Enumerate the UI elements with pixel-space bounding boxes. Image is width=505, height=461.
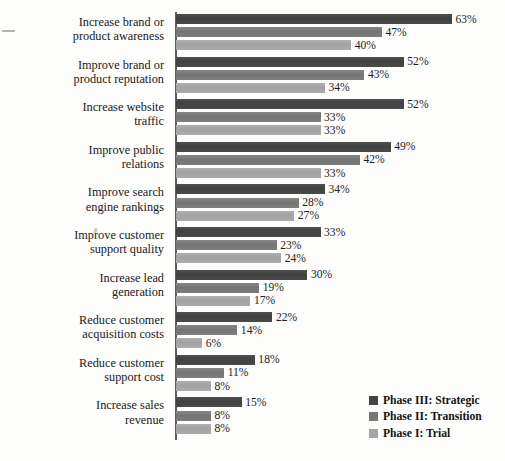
category-label: Improve searchengine rankings [6, 185, 164, 213]
bar-value-label: 18% [258, 354, 279, 364]
bar-value-label: 17% [254, 295, 275, 305]
bar-value-label: 24% [285, 253, 306, 263]
bar-value-label: 8% [215, 410, 230, 420]
bar [176, 198, 299, 208]
bar-value-label: 47% [385, 27, 406, 37]
bar-value-label: 15% [245, 397, 266, 407]
legend-item[interactable]: Phase II: Transition [369, 409, 482, 426]
bar [176, 83, 325, 93]
bar-value-label: 6% [206, 338, 221, 348]
bar-value-label: 27% [298, 210, 319, 220]
category-label: Reduce customersupport cost [6, 356, 164, 384]
bar-value-label: 33% [324, 112, 345, 122]
bar [176, 40, 351, 50]
category-label: Increase brand orproduct awareness [6, 15, 164, 43]
category-label-line: revenue [6, 413, 164, 427]
bar [176, 397, 242, 407]
legend-swatch-icon [369, 412, 378, 421]
category-label-line: Reduce customer [6, 313, 164, 327]
bar [176, 296, 250, 306]
category-label-line: Improve public [6, 143, 164, 157]
category-label-line: relations [6, 157, 164, 171]
bar-value-label: 63% [456, 14, 477, 24]
category-label-line: engine rankings [6, 200, 164, 214]
bar [176, 57, 404, 67]
category-label-line: Improve search [6, 185, 164, 199]
bar [176, 312, 272, 322]
bar-value-label: 14% [241, 325, 262, 335]
bar-value-label: 30% [311, 269, 332, 279]
legend-item[interactable]: Phase I: Trial [369, 425, 482, 442]
bar-value-label: 34% [328, 82, 349, 92]
category-label-line: product reputation [6, 72, 164, 86]
bar-value-label: 49% [394, 141, 415, 151]
category-label-line: Increase sales [6, 398, 164, 412]
bar-value-label: 43% [368, 69, 389, 79]
legend-swatch-icon [369, 429, 378, 438]
legend-label: Phase II: Transition [383, 410, 482, 423]
legend-label: Phase III: Strategic [383, 394, 480, 407]
bar [176, 125, 321, 135]
bar-value-label: 19% [263, 282, 284, 292]
bar-value-label: 22% [276, 312, 297, 322]
bar-value-label: 52% [407, 56, 428, 66]
category-label-line: Increase lead [6, 271, 164, 285]
bar [176, 27, 382, 37]
bar [176, 253, 281, 263]
bar [176, 14, 452, 24]
bar-value-label: 34% [328, 184, 349, 194]
category-label: Increase websitetraffic [6, 100, 164, 128]
bar-value-label: 52% [407, 99, 428, 109]
bar-value-label: 33% [324, 168, 345, 178]
bar-value-label: 8% [215, 423, 230, 433]
category-label-line: traffic [6, 114, 164, 128]
bar [176, 325, 237, 335]
bar [176, 142, 391, 152]
bar [176, 112, 321, 122]
legend-item[interactable]: Phase III: Strategic [369, 392, 482, 409]
bar-value-label: 28% [302, 197, 323, 207]
category-label-line: product awareness [6, 29, 164, 43]
bar [176, 338, 202, 348]
category-label-line: acquisition costs [6, 327, 164, 341]
category-label-line: Reduce customer [6, 356, 164, 370]
bar-value-label: 40% [355, 40, 376, 50]
category-label: Improve brand orproduct reputation [6, 58, 164, 86]
bar [176, 155, 360, 165]
bar-value-label: 23% [280, 240, 301, 250]
category-label: Increase leadgeneration [6, 271, 164, 299]
bar-value-label: 8% [215, 381, 230, 391]
category-label-line: Increase website [6, 100, 164, 114]
category-label-line: Increase brand or [6, 15, 164, 29]
bar-value-label: 11% [228, 367, 249, 377]
bar-value-label: 33% [324, 125, 345, 135]
legend-label: Phase I: Trial [383, 427, 450, 440]
category-label: Improve publicrelations [6, 143, 164, 171]
category-label: Improve customersupport quality [6, 228, 164, 256]
bar [176, 99, 404, 109]
category-label-line: generation [6, 285, 164, 299]
category-label: Increase salesrevenue [6, 398, 164, 426]
bar [176, 355, 255, 365]
category-label-line: Improve brand or [6, 58, 164, 72]
bar [176, 368, 224, 378]
bar [176, 168, 321, 178]
horizontal-bar-chart: Increase brand orproduct awarenessImprov… [0, 0, 505, 461]
bar [176, 411, 211, 421]
bar-value-label: 33% [324, 227, 345, 237]
bar [176, 270, 307, 280]
chart-legend: Phase III: StrategicPhase II: Transition… [369, 392, 482, 442]
bar-value-label: 42% [364, 154, 385, 164]
bar [176, 283, 259, 293]
bar [176, 70, 364, 80]
bar [176, 184, 325, 194]
legend-swatch-icon [369, 396, 378, 405]
bar [176, 227, 321, 237]
category-label: Reduce customeracquisition costs [6, 313, 164, 341]
bar [176, 424, 211, 434]
category-label-line: Improve customer [6, 228, 164, 242]
bar [176, 381, 211, 391]
bar [176, 211, 294, 221]
bar [176, 240, 277, 250]
category-label-line: support quality [6, 242, 164, 256]
